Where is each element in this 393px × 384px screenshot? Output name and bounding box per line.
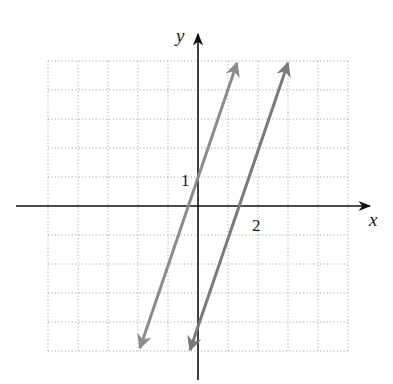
x-axis-label: x — [368, 209, 378, 230]
coordinate-plane: y x 1 2 — [0, 0, 393, 384]
y-axis-label: y — [174, 25, 185, 46]
tick-label-x-2: 2 — [252, 216, 261, 235]
tick-label-y-1: 1 — [181, 171, 190, 190]
